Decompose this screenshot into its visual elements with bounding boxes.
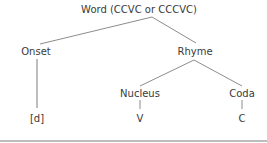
bottom-divider: [0, 140, 267, 142]
node-onset: Onset: [21, 47, 51, 57]
edge-word-onset: [40, 17, 152, 44]
node-nucleus: Nucleus: [120, 89, 160, 99]
edge-rhyme-coda: [194, 60, 242, 86]
node-coda: Coda: [229, 89, 255, 99]
leaf-coda-c: C: [239, 114, 246, 124]
node-rhyme: Rhyme: [177, 47, 212, 57]
node-word: Word (CCVC or CCCVC): [81, 5, 197, 15]
leaf-nucleus-v: V: [137, 114, 144, 124]
edge-word-rhyme: [152, 17, 196, 43]
syllable-tree-diagram: Word (CCVC or CCCVC) Onset Rhyme Nucleus…: [0, 0, 267, 143]
edge-rhyme-nucleus: [140, 60, 194, 86]
leaf-onset-d: [d]: [30, 114, 44, 124]
